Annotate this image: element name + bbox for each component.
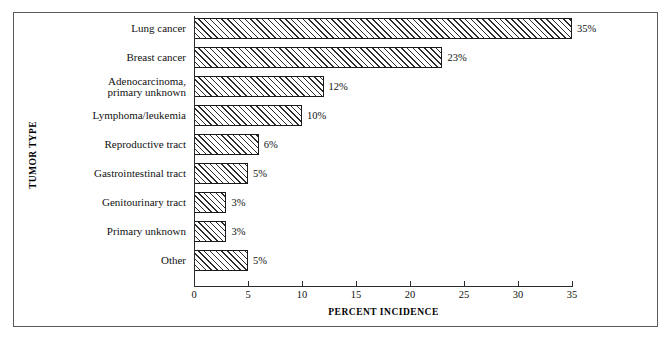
x-tick [194, 281, 195, 286]
bar-value-label: 23% [447, 52, 466, 63]
bar [194, 163, 248, 184]
bar-value-label: 5% [253, 255, 267, 266]
x-axis-title: PERCENT INCIDENCE [194, 307, 573, 317]
x-tick [248, 281, 249, 286]
x-tick [518, 281, 519, 286]
x-tick [410, 281, 411, 286]
bar-value-label: 5% [253, 168, 267, 179]
bar [194, 134, 259, 155]
bar [194, 18, 572, 39]
y-axis-line [194, 16, 195, 286]
bar-value-label: 3% [231, 197, 245, 208]
x-tick-label: 0 [179, 289, 209, 300]
x-tick-label: 30 [503, 289, 533, 300]
x-tick-label: 35 [557, 289, 587, 300]
bar-value-label: 12% [329, 81, 348, 92]
bar [194, 192, 226, 213]
x-tick-label: 5 [233, 289, 263, 300]
x-tick [464, 281, 465, 286]
x-tick-label: 15 [341, 289, 371, 300]
bar [194, 76, 324, 97]
bar [194, 250, 248, 271]
bar-value-label: 35% [577, 23, 596, 34]
x-tick-label: 25 [449, 289, 479, 300]
x-axis-line [194, 286, 573, 287]
bar [194, 105, 302, 126]
bar-value-label: 6% [264, 139, 278, 150]
x-tick-label: 10 [287, 289, 317, 300]
bar-value-label: 10% [307, 110, 326, 121]
bar [194, 47, 442, 68]
x-tick-label: 20 [395, 289, 425, 300]
x-tick [302, 281, 303, 286]
bar [194, 221, 226, 242]
x-tick [572, 281, 573, 286]
chart-figure: TUMOR TYPE Lung cancerBreast cancerAdeno… [0, 0, 669, 342]
bar-value-label: 3% [231, 226, 245, 237]
x-tick [356, 281, 357, 286]
